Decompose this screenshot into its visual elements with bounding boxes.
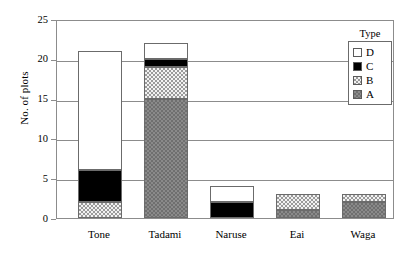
legend-label-c: C <box>366 61 373 72</box>
y-tick-label-0: 0 <box>14 214 48 224</box>
legend-item-a[interactable]: A <box>353 87 391 101</box>
legend-swatch-d-icon <box>353 48 362 57</box>
bar-chart: No. of plots 25 20 15 10 5 0 <box>0 0 410 257</box>
legend-item-c[interactable]: C <box>353 59 391 73</box>
legend-item-b[interactable]: B <box>353 73 391 87</box>
legend-label-b: B <box>366 75 373 86</box>
legend-label-a: A <box>366 89 374 100</box>
y-tick-label-20: 20 <box>14 54 48 64</box>
plot-area <box>56 20 394 219</box>
legend-item-d[interactable]: D <box>353 45 391 59</box>
bar-segment-naruse-C[interactable] <box>210 202 254 218</box>
legend: D C B A <box>348 41 392 105</box>
legend-label-d: D <box>366 47 374 58</box>
bar-segment-eai-A[interactable] <box>276 210 320 218</box>
legend-swatch-a-icon <box>353 90 362 99</box>
y-tick-label-10: 10 <box>14 134 48 144</box>
y-tick-label-5: 5 <box>14 174 48 184</box>
bar-segment-tone-D[interactable] <box>78 51 122 170</box>
bar-segment-naruse-D[interactable] <box>210 186 254 202</box>
bar-segment-eai-B[interactable] <box>276 194 320 210</box>
bar-segment-tadami-C[interactable] <box>144 59 188 67</box>
bar-segment-tadami-B[interactable] <box>144 67 188 99</box>
bar-segment-tadami-D[interactable] <box>144 43 188 59</box>
bar-segment-tadami-A[interactable] <box>144 99 188 218</box>
bar-segment-tone-C[interactable] <box>78 170 122 202</box>
y-tick-mark-0 <box>51 219 56 220</box>
bar-segment-waga-B[interactable] <box>342 194 386 202</box>
bar-segment-waga-A[interactable] <box>342 202 386 218</box>
legend-swatch-c-icon <box>353 62 362 71</box>
x-tick-label-waga: Waga <box>323 228 403 240</box>
legend-swatch-b-icon <box>353 76 362 85</box>
bar-segment-tone-B[interactable] <box>78 202 122 218</box>
legend-title: Type <box>348 28 392 39</box>
y-tick-label-15: 15 <box>14 94 48 104</box>
y-tick-label-25: 25 <box>14 15 48 25</box>
